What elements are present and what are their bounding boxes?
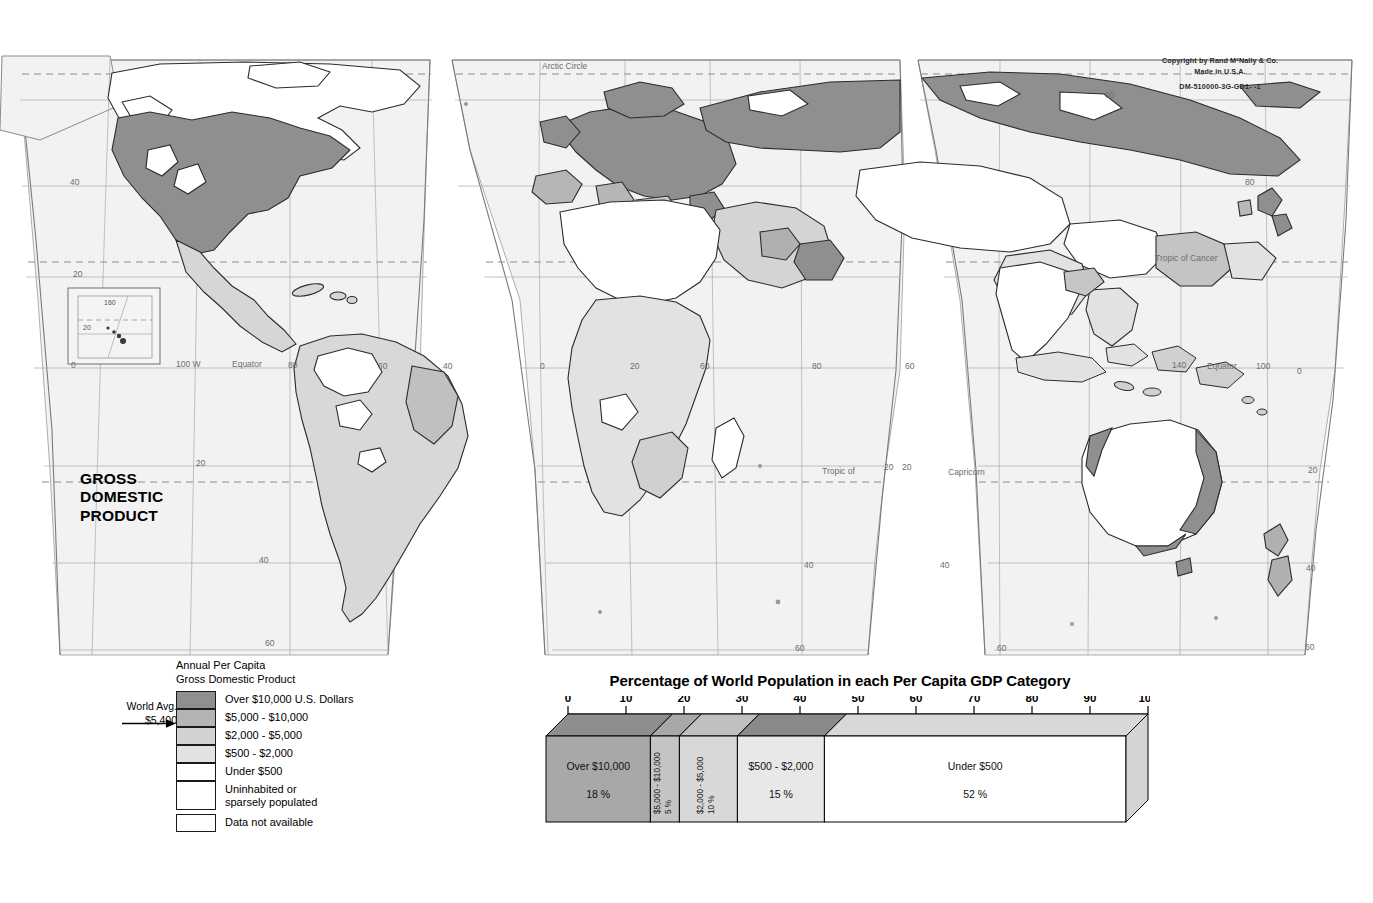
page-title-line-1: GROSS [80, 470, 240, 488]
chart-segment-value-label: 5 % [664, 800, 673, 814]
graticule-label: 20 [630, 361, 640, 371]
graticule-label: 20 [73, 269, 83, 279]
legend-item-5000-10000[interactable]: $5,000 - $10,000 [176, 709, 406, 727]
graticule-label: 60 [378, 361, 388, 371]
chart-segment-value-label: 52 % [963, 788, 987, 800]
chart-axis-tick-label: 70 [968, 696, 981, 704]
legend-item-label: $5,000 - $10,000 [216, 709, 308, 724]
graticule-label: 60 [795, 643, 805, 653]
graticule-label: Arctic Circle [542, 61, 588, 71]
chart-axis-tick-label: 90 [1084, 696, 1097, 704]
graticule-label: 40 [1306, 563, 1316, 573]
chart-axis-tick-label: 10 [620, 696, 633, 704]
graticule-label: Tropic of [822, 466, 855, 476]
population-share-chart: Percentage of World Population in each P… [530, 672, 1150, 852]
chart-segment-category-label: Under $500 [948, 760, 1003, 772]
graticule-label: Equator [232, 359, 262, 369]
graticule-label: 40 [259, 555, 269, 565]
chart-segment-value-label: 15 % [769, 788, 793, 800]
chart-axis-tick-label: 100 [1138, 696, 1150, 704]
legend-item-label: Over $10,000 U.S. Dollars [216, 691, 353, 706]
legend-heading-line-2: Gross Domestic Product [176, 672, 406, 686]
page-title-line-3: PRODUCT [80, 507, 240, 525]
svg-text:160: 160 [104, 299, 116, 306]
chart-segment-value-label: 18 % [586, 788, 610, 800]
chart-segment-front-face [824, 736, 1126, 822]
graticule-label: 20 [902, 462, 912, 472]
legend-item-500-2000[interactable]: $500 - $2,000 [176, 745, 406, 763]
chart-axis-tick-label: 60 [910, 696, 923, 704]
legend-swatch [176, 763, 216, 781]
legend-swatch [176, 781, 216, 810]
page-title: GROSS DOMESTIC PRODUCT [80, 470, 240, 525]
chart-segment-front-face [546, 736, 650, 822]
chart-axis-tick-label: 20 [678, 696, 691, 704]
legend-item-data-not-available[interactable]: Data not available [176, 810, 406, 832]
graticule-label: Tropic of Cancer [1155, 253, 1218, 263]
chart-bar-segment[interactable]: Under $50052 % [824, 714, 1148, 822]
chart-axis-tick-label: 0 [565, 696, 571, 704]
chart-segment-front-face [737, 736, 824, 822]
copyright-product-code: DM-510000-3G-GD1- -1 [1120, 82, 1320, 93]
graticule-label: 80 [288, 360, 298, 370]
svg-text:20: 20 [83, 324, 91, 331]
graticule-label: 140 [1172, 360, 1186, 370]
graticule-label: 40 [443, 361, 453, 371]
chart-axis-tick-label: 80 [1026, 696, 1039, 704]
graticule-label: 60 [265, 638, 275, 648]
legend-item-label: $500 - $2,000 [216, 745, 293, 760]
legend-swatch-list: Over $10,000 U.S. Dollars $5,000 - $10,0… [176, 691, 406, 832]
chart-segment-category-label: Over $10,000 [566, 760, 630, 772]
chart-axis-tick-label: 30 [736, 696, 749, 704]
legend-swatch [176, 691, 216, 709]
legend-item-2000-5000[interactable]: $2,000 - $5,000 [176, 727, 406, 745]
graticule-label: 80 [812, 361, 822, 371]
legend-heading-line-1: Annual Per Capita [176, 658, 406, 672]
graticule-label: 80 [1245, 177, 1255, 187]
hawaii-inset: 160 20 [68, 288, 160, 364]
chart-bar-segments: Over $10,00018 %$5,000 - $10,0005 %$2,00… [546, 714, 1148, 822]
graticule-label: Equator [1207, 361, 1237, 371]
map-legend: Annual Per Capita Gross Domestic Product… [176, 658, 406, 832]
chart-segment-category-label: $2,000 - $5,000 [696, 756, 705, 814]
graticule-label: 100 W [176, 359, 201, 369]
copyright-publisher: Copyright by Rand MᶜNally & Co. [1120, 56, 1320, 67]
world-average-label: World Avg. [72, 700, 177, 714]
chart-title: Percentage of World Population in each P… [530, 672, 1150, 689]
legend-item-label: Uninhabited or sparsely populated [216, 781, 317, 810]
graticule-label: 60 [700, 361, 710, 371]
legend-item-over-10000[interactable]: Over $10,000 U.S. Dollars [176, 691, 406, 709]
chart-axis: 0102030405060708090100 [565, 696, 1150, 714]
copyright-origin: Made in U.S.A. [1120, 67, 1320, 78]
graticule-label: 40 [940, 560, 950, 570]
legend-item-label: $2,000 - $5,000 [216, 727, 302, 742]
chart-axis-tick-label: 40 [794, 696, 807, 704]
graticule-label: 20 [884, 462, 894, 472]
world-map-graphic: 160 20 [0, 0, 1373, 660]
graticule-label: 40 [804, 560, 814, 570]
graticule-label: Capricorn [948, 467, 985, 477]
legend-swatch [176, 745, 216, 763]
world-average-arrow-icon [122, 718, 178, 729]
legend-item-uninhabited[interactable]: Uninhabited or sparsely populated [176, 781, 406, 810]
chart-segment-value-label: 10 % [707, 795, 716, 814]
graticule-label: 60 [1105, 90, 1115, 100]
world-map-panel: 160 20 [0, 0, 1373, 660]
copyright-notice: Copyright by Rand MᶜNally & Co. Made in … [1120, 56, 1320, 92]
graticule-label: 0 [71, 360, 76, 370]
graticule-label: 60 [905, 361, 915, 371]
graticule-label: 100 [1256, 361, 1270, 371]
graticule-label: 0 [1297, 366, 1302, 376]
legend-item-under-500[interactable]: Under $500 [176, 763, 406, 781]
graticule-label: 20 [196, 458, 206, 468]
chart-segment-category-label: $500 - $2,000 [748, 760, 813, 772]
chart-graphic: 0102030405060708090100 Over $10,00018 %$… [530, 696, 1150, 846]
legend-heading: Annual Per Capita Gross Domestic Product [176, 658, 406, 686]
legend-swatch [176, 814, 216, 832]
chart-segment-category-label: $5,000 - $10,000 [653, 752, 662, 814]
chart-axis-tick-label: 50 [852, 696, 865, 704]
graticule-label: 0 [540, 361, 545, 371]
legend-swatch [176, 727, 216, 745]
page-title-line-2: DOMESTIC [80, 488, 240, 506]
graticule-label: 60 [997, 643, 1007, 653]
